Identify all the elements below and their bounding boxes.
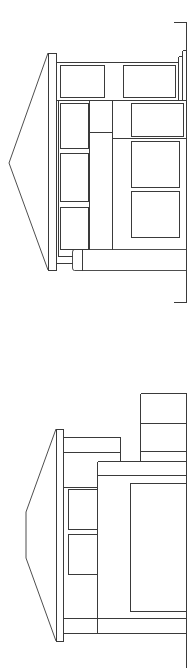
eave-board — [49, 54, 57, 271]
elevation-drawing-canvas — [0, 0, 196, 668]
base-block — [73, 250, 187, 271]
window-7 — [132, 142, 180, 188]
window-2 — [124, 66, 176, 98]
hip-roof-outline — [26, 429, 56, 641]
lower-elevation — [26, 394, 187, 668]
window-8 — [132, 192, 180, 238]
upper-elevation — [9, 23, 187, 303]
window-6 — [132, 104, 184, 137]
window-3 — [131, 484, 187, 612]
elevation-drawing — [0, 0, 196, 668]
window-1 — [61, 66, 105, 98]
window-1 — [69, 490, 98, 530]
window-4 — [61, 154, 89, 202]
window-2 — [69, 535, 98, 575]
gable-roof-outline — [9, 53, 48, 270]
window-3 — [61, 104, 89, 149]
window-5 — [61, 208, 89, 250]
eave-board — [57, 430, 64, 642]
